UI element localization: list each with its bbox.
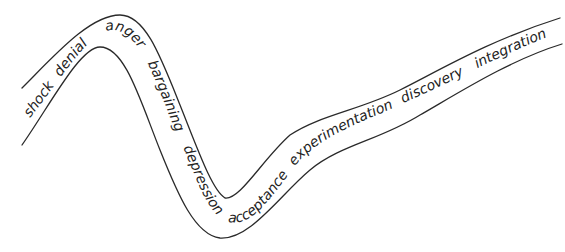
stage-experimentation: experimentation xyxy=(285,96,395,168)
stage-bargaining: bargaining xyxy=(145,57,188,134)
band-upper-edge xyxy=(22,15,560,198)
stage-depression: depression xyxy=(180,142,227,217)
stage-discovery: discovery xyxy=(397,63,466,106)
change-curve-diagram: shock denial anger bargaining depression… xyxy=(0,0,565,252)
band-lower-edge xyxy=(22,44,562,238)
stage-anger: anger xyxy=(104,17,150,52)
stage-acceptance: acceptance xyxy=(228,167,291,226)
